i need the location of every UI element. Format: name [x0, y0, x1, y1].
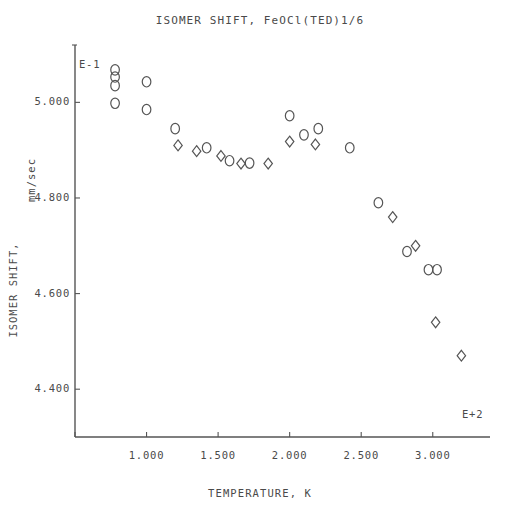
data-point-circle: [285, 111, 294, 121]
data-point-circle: [300, 130, 309, 140]
data-point-diamond: [388, 212, 396, 223]
axes-group: [72, 45, 490, 437]
x-axis-exponent-label: E+2: [462, 408, 483, 420]
data-point-circle: [111, 98, 120, 108]
data-markers-group: [111, 65, 466, 361]
series-circle-series: [111, 65, 442, 275]
data-point-circle: [245, 158, 254, 168]
data-point-diamond: [192, 146, 200, 157]
y-tick-label: 4.400: [14, 382, 70, 394]
data-point-circle: [142, 104, 151, 114]
plot-canvas: mm/secISOMER SHIFT,: [0, 0, 520, 519]
data-point-diamond: [457, 350, 465, 361]
data-point-circle: [171, 123, 180, 133]
x-axis-title: TEMPERATURE, K: [0, 487, 520, 499]
x-tick-label: 2.500: [337, 449, 385, 461]
data-point-diamond: [285, 136, 293, 147]
y-axis-title-group: mm/secISOMER SHIFT,: [7, 158, 37, 338]
data-point-diamond: [411, 240, 419, 251]
data-point-circle: [314, 123, 323, 133]
series-diamond-series: [174, 136, 466, 361]
chart-container: ISOMER SHIFT, FeOCl(TED)1/6 mm/secISOMER…: [0, 0, 520, 519]
x-tick-label: 2.000: [266, 449, 314, 461]
data-point-diamond: [264, 158, 272, 169]
y-axis-exponent-label: E-1: [79, 58, 100, 70]
data-point-circle: [424, 264, 433, 274]
data-point-circle: [374, 198, 383, 208]
data-point-diamond: [237, 158, 245, 169]
data-point-circle: [433, 264, 442, 274]
data-point-diamond: [174, 140, 182, 151]
data-point-diamond: [311, 139, 319, 150]
data-point-diamond: [431, 317, 439, 328]
data-point-circle: [202, 143, 211, 153]
data-point-diamond: [217, 151, 225, 162]
x-tick-label: 3.000: [409, 449, 457, 461]
data-point-circle: [345, 143, 354, 153]
x-tick-label: 1.500: [194, 449, 242, 461]
y-tick-label: 4.800: [14, 191, 70, 203]
data-point-circle: [142, 77, 151, 87]
data-point-circle: [225, 155, 234, 165]
x-tick-label: 1.000: [123, 449, 171, 461]
data-point-circle: [403, 246, 412, 256]
y-tick-label: 4.600: [14, 287, 70, 299]
y-tick-label: 5.000: [14, 95, 70, 107]
